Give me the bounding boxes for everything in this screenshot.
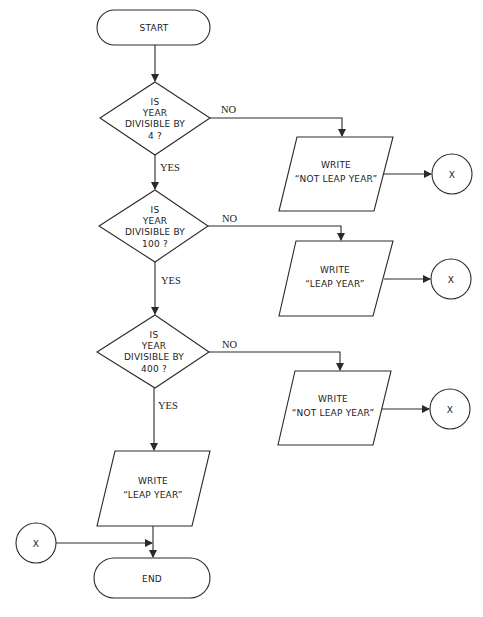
decision-text: DIVISIBLE BY bbox=[125, 227, 185, 237]
no-branch-arrow bbox=[210, 118, 342, 136]
decision-text: DIVISIBLE BY bbox=[125, 119, 185, 129]
decision-text: 4 ? bbox=[148, 131, 162, 141]
no-label: NO bbox=[221, 104, 237, 115]
output-text: “LEAP YEAR” bbox=[123, 490, 182, 500]
decision-divisible-by-100: IS YEAR DIVISIBLE BY 100 ? bbox=[99, 190, 208, 262]
output-leap-year-1: WRITE “LEAP YEAR” bbox=[279, 241, 393, 316]
decision-divisible-by-400: IS YEAR DIVISIBLE BY 400 ? bbox=[97, 315, 209, 388]
connector-x-1: X bbox=[432, 154, 472, 194]
end-terminal: END bbox=[94, 558, 210, 598]
output-text: WRITE bbox=[138, 476, 168, 486]
no-label: NO bbox=[222, 339, 238, 350]
connector-label: X bbox=[33, 539, 39, 549]
decision-text: YEAR bbox=[142, 216, 167, 226]
no-label: NO bbox=[222, 213, 238, 224]
start-label: START bbox=[140, 23, 169, 33]
decision-text: DIVISIBLE BY bbox=[124, 352, 184, 362]
output-leap-year-2: WRITE “LEAP YEAR” bbox=[97, 451, 210, 526]
decision-text: IS bbox=[151, 97, 160, 107]
yes-label: YES bbox=[158, 400, 178, 411]
yes-label: YES bbox=[160, 162, 180, 173]
decision-text: YEAR bbox=[141, 341, 166, 351]
output-text: WRITE bbox=[321, 160, 351, 170]
output-not-leap-year-2: WRITE “NOT LEAP YEAR” bbox=[278, 371, 391, 445]
start-terminal: START bbox=[97, 10, 210, 45]
output-text: “LEAP YEAR” bbox=[305, 279, 364, 289]
connector-x-3: X bbox=[430, 389, 470, 429]
decision-text: IS bbox=[150, 330, 159, 340]
decision-text: 100 ? bbox=[142, 239, 168, 249]
decision-divisible-by-4: IS YEAR DIVISIBLE BY 4 ? bbox=[100, 82, 210, 155]
decision-text: YEAR bbox=[142, 108, 167, 118]
connector-x-2: X bbox=[431, 259, 471, 299]
connector-label: X bbox=[447, 405, 453, 415]
connector-x-entry: X bbox=[16, 523, 56, 563]
connector-label: X bbox=[448, 275, 454, 285]
decision-text: 400 ? bbox=[141, 364, 167, 374]
connector-label: X bbox=[449, 170, 455, 180]
no-branch-arrow bbox=[209, 352, 340, 370]
output-text: WRITE bbox=[320, 265, 350, 275]
output-not-leap-year-1: WRITE “NOT LEAP YEAR” bbox=[279, 137, 393, 211]
output-text: “NOT LEAP YEAR” bbox=[295, 174, 378, 184]
end-label: END bbox=[142, 574, 162, 584]
output-text: WRITE bbox=[318, 394, 348, 404]
decision-text: IS bbox=[151, 205, 160, 215]
no-branch-arrow bbox=[208, 226, 341, 240]
output-text: “NOT LEAP YEAR” bbox=[292, 408, 375, 418]
yes-label: YES bbox=[161, 275, 181, 286]
leap-year-flowchart: START IS YEAR DIVISIBLE BY 4 ? NO YES WR… bbox=[0, 0, 483, 617]
